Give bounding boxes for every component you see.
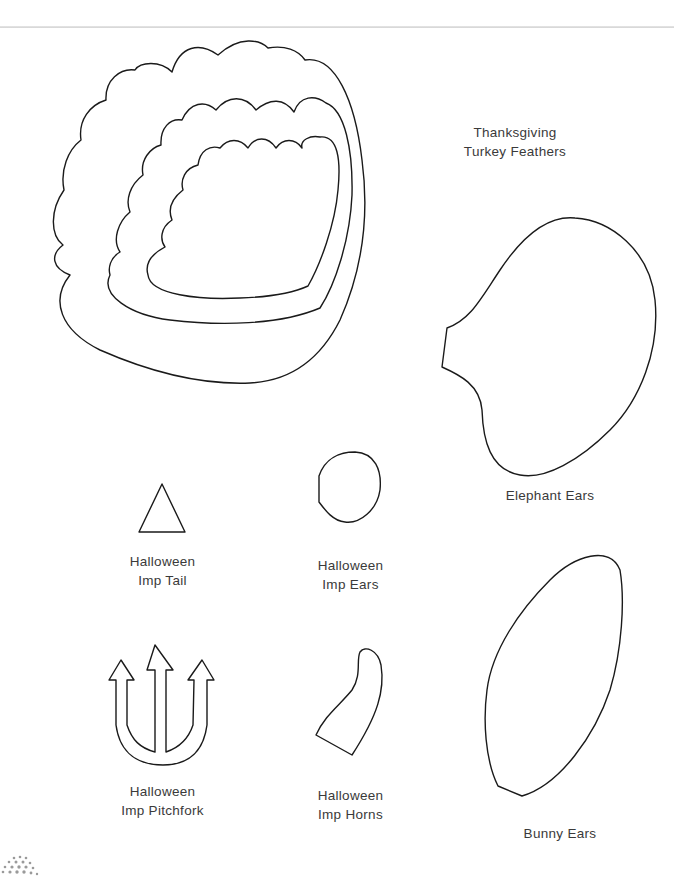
label-imp-ears: Halloween Imp Ears bbox=[288, 556, 413, 594]
imp-ear-icon bbox=[319, 452, 380, 522]
label-turkey-feathers: Thanksgiving Turkey Feathers bbox=[450, 123, 580, 161]
triangle-tail-icon bbox=[139, 484, 185, 532]
horn-icon bbox=[316, 649, 382, 755]
label-elephant-ears: Elephant Ears bbox=[470, 486, 630, 505]
turkey-feather-outer bbox=[53, 41, 364, 383]
label-imp-horns: Halloween Imp Horns bbox=[288, 786, 413, 824]
label-bunny-ears: Bunny Ears bbox=[480, 824, 640, 843]
pitchfork-icon bbox=[109, 645, 214, 765]
label-imp-pitchfork: Halloween Imp Pitchfork bbox=[100, 782, 225, 820]
label-imp-tail: Halloween Imp Tail bbox=[100, 552, 225, 590]
bunny-ear-icon bbox=[485, 556, 622, 796]
turkey-feather-middle bbox=[108, 98, 352, 324]
turkey-feather-inner bbox=[147, 137, 339, 299]
turkey-feathers-icon bbox=[53, 41, 364, 383]
dot-pattern-decoration bbox=[0, 852, 40, 877]
elephant-ear-icon bbox=[442, 218, 656, 476]
